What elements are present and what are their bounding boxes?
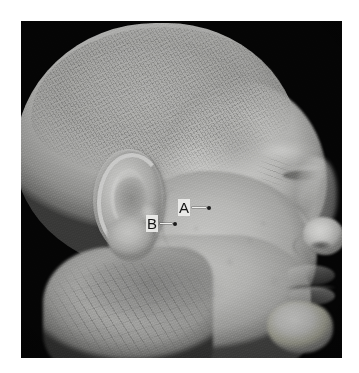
annotation-leader-a bbox=[192, 207, 206, 209]
neck-skin-wrinkles bbox=[45, 263, 210, 358]
annotation-point-a bbox=[207, 206, 211, 210]
annotation-marker-b[interactable]: B bbox=[146, 215, 177, 232]
annotation-marker-a[interactable]: A bbox=[178, 199, 211, 216]
figure-root: A B bbox=[0, 0, 359, 373]
head-image bbox=[21, 21, 342, 358]
photograph-plate: A B bbox=[21, 21, 342, 358]
nostril bbox=[310, 241, 332, 250]
annotation-label-b: B bbox=[146, 215, 158, 232]
annotation-leader-b bbox=[160, 223, 172, 225]
annotation-label-a: A bbox=[178, 199, 190, 216]
annotation-point-b bbox=[173, 222, 177, 226]
